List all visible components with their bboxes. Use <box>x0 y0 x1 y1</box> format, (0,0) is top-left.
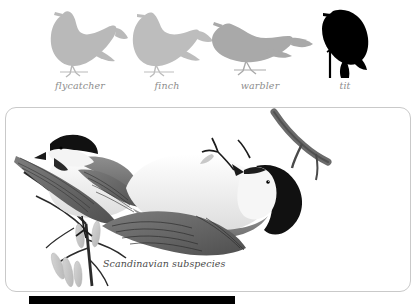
silhouette-item-finch: finch <box>118 0 216 100</box>
bird-silhouette-flycatcher-icon <box>30 2 130 78</box>
field-guide-page: flycatcher finch <box>0 0 417 304</box>
bottom-black-bar <box>29 296 235 304</box>
silhouette-item-flycatcher: flycatcher <box>30 0 130 100</box>
bird-silhouette-finch-icon <box>118 2 216 78</box>
bird-silhouette-warbler-icon <box>204 2 316 78</box>
silhouette-item-warbler: warbler <box>204 0 316 100</box>
silhouette-item-tit: tit <box>303 0 387 100</box>
silhouette-row: flycatcher finch <box>0 0 417 100</box>
silhouette-label-tit: tit <box>303 80 387 91</box>
bird-silhouette-tit-icon <box>303 2 387 78</box>
plate-caption: Scandinavian subspecies <box>103 258 226 269</box>
silhouette-label-finch: finch <box>118 80 216 91</box>
silhouette-label-warbler: warbler <box>204 80 316 91</box>
silhouette-label-flycatcher: flycatcher <box>30 80 130 91</box>
illustration-willow-tit-hanging <box>14 112 328 255</box>
